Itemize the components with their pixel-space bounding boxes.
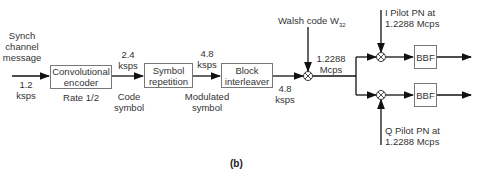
- rate-after-conv: 2.4 ksps: [115, 49, 141, 71]
- bbf-q-block: BBF: [414, 83, 437, 107]
- i-pilot-label: I Pilot PN at 1.2288 Mcps: [385, 7, 439, 29]
- q-pilot-label: Q Pilot PN at 1.2288 Mcps: [385, 125, 440, 147]
- figure-caption: (b): [230, 158, 243, 169]
- convolutional-encoder-block: Convolutionalencoder: [50, 65, 112, 89]
- rate-after-walsh: 1.2288 Mcps: [314, 53, 348, 75]
- block-interleaver-block: Blockinterleaver: [221, 63, 273, 88]
- rate-after-symrep: 4.8 ksps: [194, 48, 220, 70]
- input-rate: 1.2 ksps: [12, 79, 40, 101]
- symbol-repetition-block: Symbolrepetition: [144, 63, 193, 88]
- walsh-code-label: Walsh code W32: [278, 15, 346, 31]
- input-label: Synch channel message: [0, 30, 44, 63]
- rate-after-interleaver: 4.8 ksps: [272, 83, 298, 105]
- conv-rate-label: Rate 1/2: [50, 92, 112, 103]
- bbf-i-block: BBF: [414, 45, 437, 69]
- modulated-symbol-label: Modulated symbol: [178, 91, 236, 113]
- code-symbol-label: Code symbol: [113, 91, 145, 113]
